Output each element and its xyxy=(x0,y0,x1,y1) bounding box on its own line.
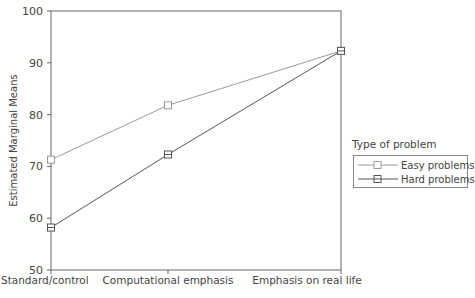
y-tick-label: 100 xyxy=(22,5,43,18)
legend: Easy problems Hard problems xyxy=(353,155,468,188)
x-category-label: Emphasis on real life xyxy=(252,274,361,286)
legend-item-easy: Easy problems xyxy=(358,158,474,172)
y-tick-label: 90 xyxy=(29,57,43,70)
plot-series xyxy=(48,47,345,231)
y-tick-label: 60 xyxy=(29,212,43,225)
y-axis-title: Estimated Marginal Means xyxy=(8,74,19,206)
y-tick-label: 80 xyxy=(29,109,43,122)
plot-axes xyxy=(47,11,341,274)
legend-item-hard: Hard problems xyxy=(358,172,475,186)
legend-line-marker-icon xyxy=(358,174,398,184)
x-category-label: Computational emphasis xyxy=(103,274,234,286)
axis-labels: 5060708090100Standard/controlComputation… xyxy=(1,5,362,286)
legend-title: Type of problem xyxy=(352,138,436,150)
data-point-marker xyxy=(48,156,55,163)
x-category-label: Standard/control xyxy=(1,274,89,286)
legend-label: Easy problems xyxy=(401,160,474,171)
legend-line-marker-icon xyxy=(358,160,398,170)
data-point-marker xyxy=(165,102,172,109)
legend-label: Hard problems xyxy=(401,174,475,185)
y-tick-label: 70 xyxy=(29,160,43,173)
series-line xyxy=(51,51,341,160)
plot-frame xyxy=(51,11,341,270)
